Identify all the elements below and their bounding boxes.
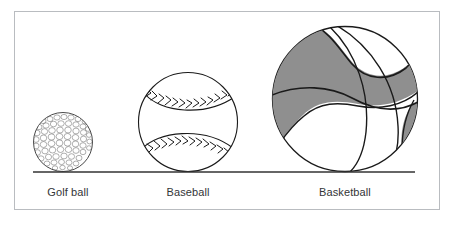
label-golf-ball: Golf ball — [16, 186, 120, 198]
golf-ball-graphic — [33, 113, 93, 172]
label-baseball: Baseball — [136, 186, 240, 198]
label-basketball: Basketball — [293, 186, 397, 198]
ball-size-comparison-figure: Golf ball Baseball Basketball — [0, 0, 457, 227]
baseball-graphic — [139, 73, 241, 172]
basketball-graphic — [272, 24, 424, 172]
